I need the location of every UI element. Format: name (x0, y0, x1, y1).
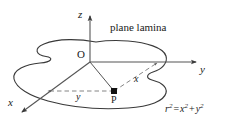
point-p-label: P (111, 95, 117, 105)
y-axis-label: y (200, 64, 205, 75)
x-axis-label: x (8, 97, 13, 108)
x-distance-label: x (134, 74, 138, 84)
plane-lamina-caption: plane lamina (110, 22, 167, 33)
equation-equals: = (172, 103, 180, 114)
plane-lamina-figure: z y x O P x y plane lamina r2=x2+y2 (0, 0, 234, 127)
y-distance-label: y (76, 92, 80, 102)
z-axis-label: z (78, 9, 82, 20)
equation-y-exponent: 2 (200, 102, 204, 110)
radius-segment-op (90, 62, 114, 91)
origin-label: O (77, 49, 85, 60)
x-axis-line (22, 62, 90, 112)
pythagorean-equation: r2=x2+y2 (165, 104, 204, 114)
equation-plus: + (188, 103, 196, 114)
